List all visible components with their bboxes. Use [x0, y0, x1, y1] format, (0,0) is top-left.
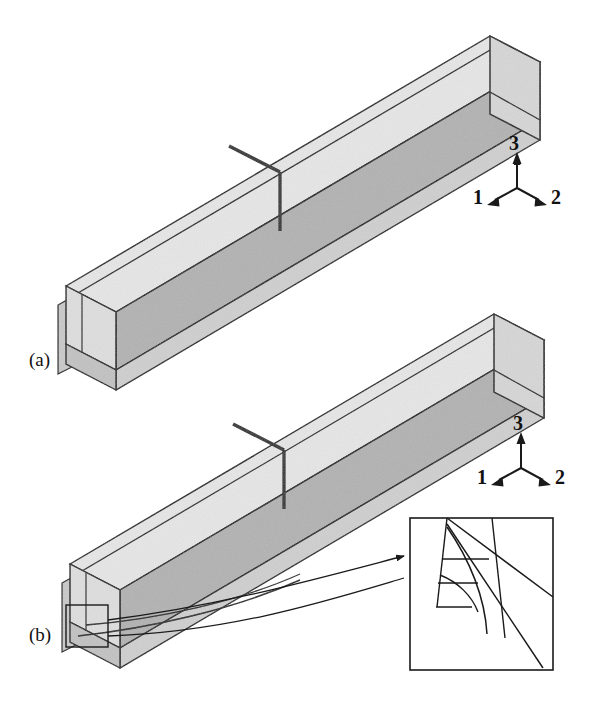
axis-label-3-a: 3	[509, 132, 519, 154]
figure-svg: 3 1 2	[0, 0, 596, 702]
axis-2-arrowhead-a	[535, 197, 548, 207]
magnified-inset	[410, 518, 553, 670]
axis-label-3-b: 3	[513, 412, 523, 434]
beam-a-transverse-crack-top	[229, 146, 280, 172]
axis-2-arrowhead-b	[539, 477, 552, 487]
axis-label-2-a: 2	[551, 186, 561, 208]
panel-label-b: (b)	[29, 624, 51, 646]
figure-root: 3 1 2	[0, 0, 596, 702]
axis-label-1-b: 1	[477, 466, 487, 488]
axis-label-2-b: 2	[555, 466, 565, 488]
beam-b-transverse-crack-top	[233, 424, 284, 450]
inset-border	[410, 518, 553, 670]
axis-1-arrowhead-a	[487, 197, 500, 207]
axis-label-1-a: 1	[473, 186, 483, 208]
axis-1-arrowhead-b	[491, 477, 504, 487]
panel-label-a: (a)	[29, 349, 50, 371]
